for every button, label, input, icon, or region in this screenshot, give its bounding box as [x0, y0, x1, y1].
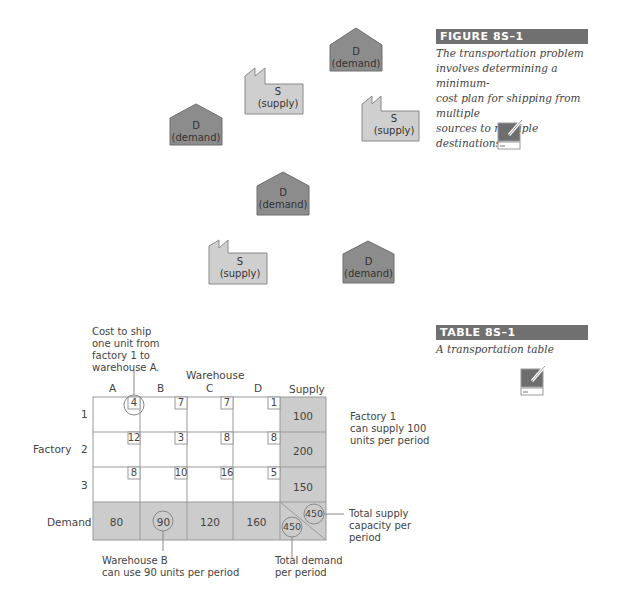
annotation-line: units per period [350, 435, 429, 447]
total-supply: 450 [302, 508, 326, 520]
cost-2-a: 12 [127, 432, 141, 444]
cost-3-b: 10 [174, 467, 188, 479]
annotation-line: can use 90 units per period [102, 567, 239, 579]
annotation-line: Total supply [349, 508, 411, 520]
column-header-c: C [206, 382, 213, 394]
total-demand: 450 [280, 521, 304, 533]
demand-a: 80 [93, 516, 140, 528]
supply-2: 200 [280, 445, 326, 457]
cost-1-b: 7 [175, 397, 187, 409]
cost-3-c: 16 [220, 467, 234, 479]
supply-1: 100 [280, 410, 326, 422]
row-label-1: 1 [81, 408, 88, 420]
demand-d: 160 [233, 516, 280, 528]
row-label-2: 2 [81, 443, 88, 455]
row-label-3: 3 [81, 479, 88, 491]
demand-b: 90 [140, 516, 187, 528]
annotation-cost: Cost to ship one unit from factory 1 to … [92, 326, 160, 374]
demand-c: 120 [187, 516, 233, 528]
annotation-line: Warehouse B [102, 555, 239, 567]
annotation-line: Total demand [275, 555, 343, 567]
annotation-line: warehouse A. [92, 362, 160, 374]
annotation-factory-supply: Factory 1 can supply 100 units per perio… [350, 411, 429, 447]
cost-1-c: 7 [221, 397, 233, 409]
annotation-line: factory 1 to [92, 350, 160, 362]
cost-3-a: 8 [128, 467, 140, 479]
annotation-line: can supply 100 [350, 423, 429, 435]
column-header-b: B [157, 382, 164, 394]
annotation-warehouse-demand: Warehouse B can use 90 units per period [102, 555, 239, 579]
factory-header: Factory [33, 443, 71, 455]
annotation-line: period [349, 532, 411, 544]
annotation-line: one unit from [92, 338, 160, 350]
cost-2-c: 8 [221, 432, 233, 444]
annotation-total-supply: Total supply capacity per period [349, 508, 411, 544]
annotation-line: capacity per [349, 520, 411, 532]
annotation-line: Cost to ship [92, 326, 160, 338]
supply-header: Supply [289, 383, 325, 395]
cost-3-d: 5 [268, 467, 280, 479]
cost-1-d: 1 [268, 397, 280, 409]
cost-2-d: 8 [268, 432, 280, 444]
column-header-d: D [254, 382, 262, 394]
annotation-line: per period [275, 567, 343, 579]
annotation-line: Factory 1 [350, 411, 429, 423]
supply-3: 150 [280, 481, 326, 493]
cost-1-a: 4 [128, 397, 140, 409]
demand-label: Demand [47, 516, 92, 528]
annotation-total-demand: Total demand per period [275, 555, 343, 579]
column-header-a: A [109, 382, 116, 394]
cost-2-b: 3 [175, 432, 187, 444]
warehouse-header: Warehouse [186, 369, 244, 381]
